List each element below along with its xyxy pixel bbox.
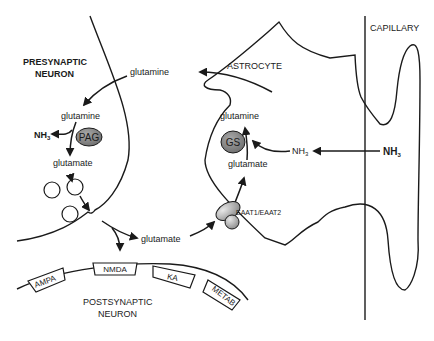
arrow-pag-nh3 bbox=[52, 130, 72, 134]
glutamate-astro-label: glutamate bbox=[228, 159, 268, 169]
svg-text:GS: GS bbox=[226, 137, 241, 148]
presynaptic-label-2: NEURON bbox=[35, 69, 74, 79]
presynaptic-label: PRESYNAPTIC bbox=[23, 57, 88, 67]
arrow-gln-to-pre bbox=[84, 76, 127, 105]
arrow-vesicle-to-release bbox=[80, 196, 89, 210]
arrow-transporter-to-glu bbox=[234, 178, 244, 205]
nh3-capillary-label: NH3 bbox=[383, 146, 401, 158]
vesicle bbox=[67, 179, 83, 195]
glutamine-pre-label: glutamine bbox=[61, 111, 100, 121]
receptor-ampa: AMPA bbox=[28, 268, 65, 292]
eaat-transporter: EAAT1/EAAT2 bbox=[213, 198, 282, 229]
astrocyte-label: ASTROCYTE bbox=[227, 61, 282, 71]
arrow-gs-glu-to-gln bbox=[245, 128, 247, 160]
nh3-pre-label: NH3 bbox=[34, 130, 51, 141]
pag-enzyme: PAG bbox=[76, 128, 102, 146]
vesicle bbox=[62, 206, 78, 222]
svg-text:PAG: PAG bbox=[79, 132, 100, 143]
postsynaptic-label: POSTSYNAPTIC bbox=[83, 297, 153, 307]
svg-text:NMDA: NMDA bbox=[103, 265, 127, 274]
glutamate-cleft-label: glutamate bbox=[141, 234, 181, 244]
vesicle bbox=[44, 182, 60, 198]
arrow-cleft-to-transporter bbox=[190, 222, 214, 236]
receptor-ka: KA bbox=[153, 266, 195, 288]
svg-text:EAAT1/EAAT2: EAAT1/EAAT2 bbox=[236, 209, 281, 216]
nh3-astro-label: NH3 bbox=[292, 146, 309, 157]
postsynaptic-label-2: NEURON bbox=[98, 309, 137, 319]
arrow-release-glutamate bbox=[102, 221, 137, 238]
glutamate-glutamine-cycle-diagram: AMPA NMDA KA METAB PAG GS EAAT1/EAAT2 bbox=[0, 0, 434, 341]
arrow-gln-to-glu bbox=[70, 122, 76, 155]
glutamine-transfer-label: glutamine bbox=[130, 67, 169, 77]
gs-enzyme: GS bbox=[221, 131, 245, 153]
glutamate-pre-label: glutamate bbox=[53, 158, 93, 168]
glutamine-astro-label: glutamine bbox=[220, 111, 259, 121]
receptor-metab: METAB bbox=[203, 280, 240, 310]
arrow-nh3-to-gs bbox=[253, 141, 290, 152]
capillary-label: CAPILLARY bbox=[370, 23, 419, 33]
receptor-nmda: NMDA bbox=[93, 263, 137, 275]
